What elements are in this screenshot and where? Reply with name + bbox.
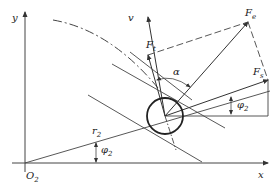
origin-label: O2 — [26, 171, 39, 184]
phi-upper-label: φ2 — [237, 100, 248, 113]
x-axis-label: x — [258, 170, 264, 180]
diagram-canvas: y x O2 r2 φ2 φ2 α v Fe Ft Fs — [0, 0, 279, 190]
y-axis-label: y — [12, 13, 18, 23]
velocity-label: v — [128, 13, 134, 23]
tangent-line-upper — [112, 64, 225, 128]
force-s-label: Fs — [253, 67, 264, 80]
alpha-label: α — [173, 67, 180, 77]
force-t-label: Ft — [146, 40, 156, 53]
radius-line — [25, 91, 270, 163]
trajectory-arc — [53, 20, 158, 88]
radius-label: r2 — [92, 126, 101, 139]
phi-lower-label: φ2 — [101, 145, 112, 158]
force-e-label: Fe — [245, 8, 256, 21]
diagram-svg — [0, 0, 279, 190]
